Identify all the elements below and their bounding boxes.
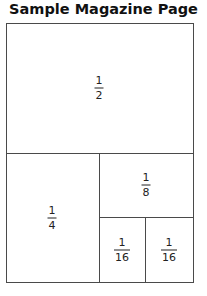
denominator: 4	[48, 220, 57, 232]
numerator: 1	[118, 237, 127, 249]
numerator: 1	[142, 172, 151, 184]
divider-sixteenth	[145, 217, 146, 283]
divider-quarter	[99, 153, 100, 283]
fraction-label-quarter: 1 4	[48, 205, 57, 232]
fraction-label-eighth: 1 8	[142, 172, 151, 199]
numerator: 1	[95, 75, 104, 87]
fraction-label-half: 1 2	[95, 75, 104, 102]
denominator: 16	[114, 252, 130, 264]
fraction-label-sixteenth-left: 1 16	[114, 237, 130, 264]
divider-eighth	[99, 217, 194, 218]
fraction-label-sixteenth-right: 1 16	[161, 237, 177, 264]
denominator: 16	[161, 252, 177, 264]
divider-half	[6, 153, 194, 154]
denominator: 8	[142, 187, 151, 199]
denominator: 2	[95, 90, 104, 102]
numerator: 1	[48, 205, 57, 217]
numerator: 1	[165, 237, 174, 249]
page-title: Sample Magazine Page	[0, 1, 207, 17]
